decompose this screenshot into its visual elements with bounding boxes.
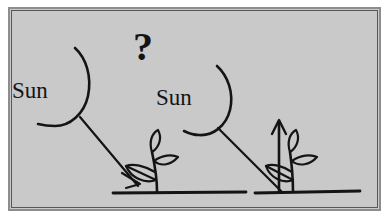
sun-left-label: Sun	[12, 78, 48, 103]
sun-left: Sun	[12, 48, 89, 126]
plant-left-leaf-top	[151, 130, 160, 152]
ray-right	[218, 128, 282, 192]
ray-left	[80, 117, 140, 188]
question-mark: ?	[133, 24, 153, 69]
ground-line-left	[113, 192, 246, 193]
figure-drawing: ? Sun Sun	[0, 0, 391, 221]
sun-right-label: Sun	[156, 85, 192, 110]
ground-line-right	[255, 191, 360, 193]
figure-root: ? Sun Sun	[0, 0, 391, 221]
ray-left-arrowhead	[122, 173, 140, 188]
plant-right-leaf-right	[292, 155, 317, 164]
sun-right: Sun	[156, 66, 231, 135]
ray-right-line	[218, 128, 282, 192]
ray-left-line	[80, 117, 138, 186]
question-mark-glyph: ?	[133, 24, 153, 69]
ground-line	[113, 191, 360, 193]
plant-left-leaf-right	[154, 155, 178, 164]
plant-right-leaf-top	[289, 130, 298, 152]
plant-right	[266, 120, 317, 192]
